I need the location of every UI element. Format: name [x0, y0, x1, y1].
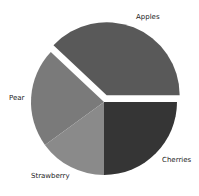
label-strawberry: Strawberry: [31, 172, 70, 180]
pie-slices: [31, 22, 180, 175]
label-apples: Apples: [136, 13, 160, 21]
label-cherries: Cherries: [162, 156, 192, 164]
pie-chart: Apples Pear Strawberry Cherries: [0, 0, 199, 196]
label-pear: Pear: [9, 94, 25, 102]
pie-slice-cherries: [104, 102, 177, 175]
